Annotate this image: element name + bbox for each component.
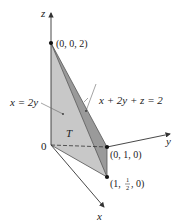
point-1-half-0-label: (1, 1 2 , 0) [110, 176, 144, 191]
tetrahedron-diagram: z y x 0 (0, 0, 2) (0, 1, 0) (1, 1 2 , 0)… [0, 0, 180, 224]
leader-dot [62, 113, 64, 115]
x-axis-label: x [96, 210, 102, 222]
point-1-half-0 [105, 175, 109, 179]
fraction-denominator: 2 [126, 184, 129, 191]
svg-text:, 0): , 0) [131, 178, 144, 190]
point-0-1-0-label: (0, 1, 0) [110, 149, 142, 161]
origin-label: 0 [41, 140, 47, 152]
left-plane-label: x = 2y [9, 96, 38, 108]
leader-slanted-plane [84, 98, 88, 102]
fraction-numerator: 1 [126, 176, 129, 183]
z-axis-label: z [40, 7, 46, 19]
point-0-1-0 [105, 145, 109, 149]
leader-slanted-plane [86, 84, 96, 111]
point-0-0-2 [49, 41, 53, 45]
y-axis [107, 134, 170, 147]
svg-text:(1,: (1, [110, 178, 121, 190]
region-label: T [66, 127, 73, 139]
y-axis-label: y [165, 135, 171, 147]
leader-dot [85, 110, 87, 112]
point-0-0-2-label: (0, 0, 2) [56, 38, 88, 50]
slanted-plane-label: x + 2y + z = 2 [98, 94, 163, 106]
